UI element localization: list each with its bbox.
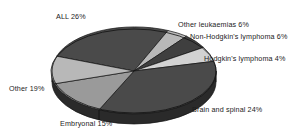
slice-label-all: ALL 26% xyxy=(56,12,86,21)
slice-label-other-leukaemias: Other leukaemias 6% xyxy=(178,20,249,29)
slice-label-hodgkins-lymphoma: Hodgkin's lymphoma 4% xyxy=(204,54,285,63)
pie-chart: ALL 26% Other leukaemias 6% Non-Hodgkin'… xyxy=(0,0,300,140)
pie-chart-graphic xyxy=(0,0,300,140)
slice-label-other: Other 19% xyxy=(9,84,44,93)
slice-label-brain-and-spinal: Brain and spinal 24% xyxy=(192,105,262,114)
slice-label-embryonal: Embryonal 15% xyxy=(60,119,112,128)
slice-label-non-hodgkins-lymphoma: Non-Hodgkin's lymphoma 6% xyxy=(190,32,287,41)
